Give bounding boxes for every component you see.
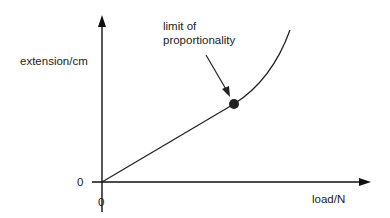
x-origin-tick-label: 0 [98, 196, 104, 209]
y-origin-tick-label: 0 [77, 176, 83, 189]
limit-of-proportionality-dot [229, 99, 239, 109]
y-axis-label: extension/cm [20, 55, 88, 68]
y-axis-arrow-icon [98, 15, 106, 27]
nonlinear-curve [234, 30, 290, 104]
annotation-line1: limit of [163, 20, 196, 33]
annotation-arrowhead-icon [222, 86, 230, 97]
annotation-line2: proportionality [163, 34, 235, 47]
x-axis-label: load/N [312, 193, 345, 206]
annotation-arrow-line [206, 55, 227, 91]
linear-region-line [102, 104, 234, 182]
x-axis-arrow-icon [359, 178, 371, 186]
